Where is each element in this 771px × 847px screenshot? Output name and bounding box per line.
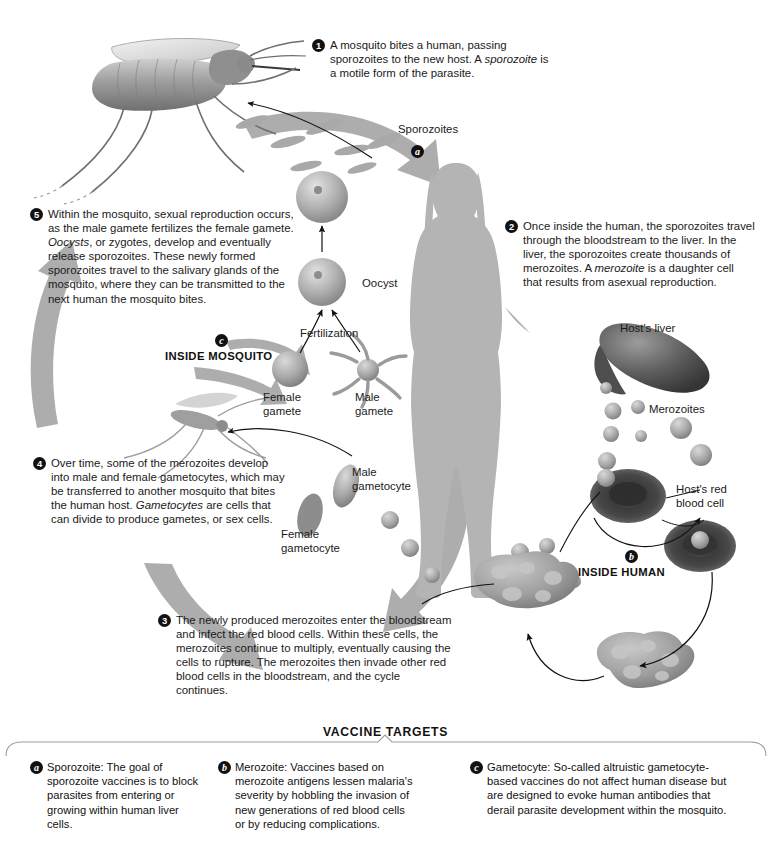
- vaccine-card-a-text: Sporozoite: The goal of sporozoite vacci…: [47, 760, 200, 831]
- diagram-canvas: 1 A mosquito bites a human, passing spor…: [0, 0, 771, 847]
- step-4: 4 Over time, some of the merozoites deve…: [33, 456, 285, 526]
- badge-c-diagram: c: [215, 334, 228, 347]
- step-4-badge: 4: [33, 457, 46, 470]
- vaccine-card-sporozoite: a Sporozoite: The goal of sporozoite vac…: [30, 760, 200, 831]
- label-hosts-red-blood-cell: Host's red blood cell: [676, 483, 727, 510]
- vaccine-card-merozoite: b Merozoite: Vaccines based on merozoite…: [218, 760, 413, 831]
- label-merozoites: Merozoites: [649, 403, 705, 417]
- step-1-emphasis: sporozoite: [485, 53, 538, 65]
- vaccine-targets-heading: VACCINE TARGETS: [0, 725, 771, 739]
- step-3-badge: 3: [158, 614, 171, 627]
- step-5: 5 Within the mosquito, sexual reproducti…: [30, 207, 295, 306]
- step-2-badge: 2: [505, 220, 518, 233]
- vaccine-card-c-text: Gametocyte: So-called altruistic gametoc…: [487, 760, 735, 817]
- sporozoite-zone-badge: a: [411, 142, 424, 160]
- inside-mosquito-badge: c: [215, 331, 228, 349]
- label-male-gametocyte: Male gametocyte: [352, 466, 411, 493]
- red-blood-cell-2: [664, 520, 736, 572]
- label-hosts-liver: Host's liver: [620, 322, 675, 336]
- label-male-gamete: Male gamete: [355, 391, 393, 418]
- step-4-emphasis: Gametocytes: [136, 499, 203, 511]
- label-female-gametocyte: Female gametocyte: [281, 528, 340, 555]
- red-blood-cell-1: [590, 469, 666, 523]
- female-gamete-cell: [272, 351, 308, 387]
- vaccine-card-c-badge: c: [470, 761, 483, 774]
- vaccine-card-b-text: Merozoite: Vaccines based on merozoite a…: [235, 760, 413, 831]
- vaccine-card-a-badge: a: [30, 761, 43, 774]
- vaccine-card-gametocyte: c Gametocyte: So-called altruistic gamet…: [470, 760, 735, 817]
- badge-b-diagram: b: [625, 550, 638, 563]
- oocyst-upper: [296, 171, 348, 223]
- inside-human-caption: INSIDE HUMAN: [578, 566, 665, 578]
- step-2: 2 Once inside the human, the sporozoites…: [505, 219, 755, 289]
- infected-cell-ruptured-2: [597, 631, 694, 688]
- label-oocyst: Oocyst: [362, 277, 397, 291]
- inside-human-badge: b: [625, 547, 638, 565]
- inside-mosquito-caption: INSIDE MOSQUITO: [165, 350, 272, 362]
- step-1-badge: 1: [312, 39, 325, 52]
- badge-a-diagram: a: [411, 145, 424, 158]
- illustration-layer: [0, 0, 771, 847]
- infected-cell-ruptured-1: [474, 551, 579, 608]
- step-5-badge: 5: [30, 208, 43, 221]
- label-sporozoites: Sporozoites: [398, 123, 458, 137]
- oocyst: [298, 258, 346, 306]
- step-5-emphasis: Oocysts: [48, 236, 89, 248]
- step-5-text: Within the mosquito, sexual reproduction…: [48, 208, 294, 234]
- rbc-cycle-arrow-3: [528, 634, 604, 680]
- step-3-text: The newly produced merozoites enter the …: [176, 614, 451, 696]
- label-fertilization: Fertilization: [300, 327, 358, 341]
- label-female-gamete: Female gamete: [263, 391, 301, 418]
- step-1: 1 A mosquito bites a human, passing spor…: [312, 38, 552, 80]
- step-3: 3 The newly produced merozoites enter th…: [158, 613, 454, 698]
- step-2-emphasis: merozoite: [595, 262, 645, 274]
- vaccine-card-b-badge: b: [218, 761, 231, 774]
- step-1-text: A mosquito bites a human, passing sporoz…: [330, 39, 507, 65]
